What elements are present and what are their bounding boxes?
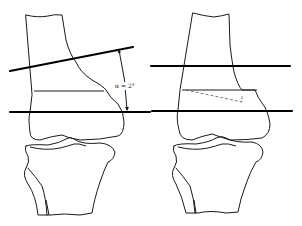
angle-label: α = 2°: [115, 82, 135, 89]
left-panel: α = 2°: [10, 15, 150, 215]
right-femur-outline: [177, 13, 270, 140]
right-tibia-outline: [172, 137, 263, 214]
left-femur-outline: [26, 15, 124, 140]
left-tibia-outline: [24, 138, 115, 216]
right-tibial-plateau: [178, 144, 236, 150]
right-panel: [151, 13, 292, 213]
knee-osteotomy-diagram: α = 2°: [0, 0, 302, 226]
right-osteotomy-wedge: [186, 90, 242, 102]
left-angle-arc: [119, 50, 127, 110]
arc-arrow-bottom-icon: [125, 107, 129, 111]
